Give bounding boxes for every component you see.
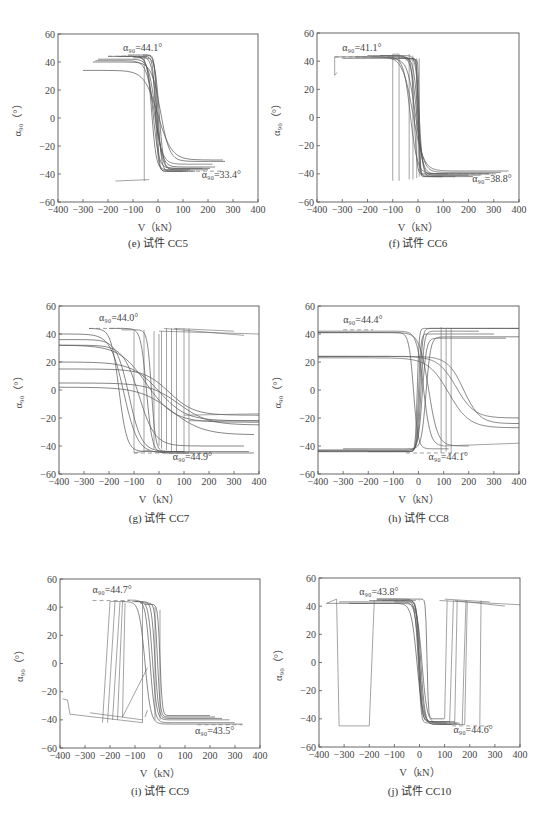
curve-segment	[327, 599, 337, 603]
curve-segment	[337, 599, 340, 726]
curve-segment	[445, 599, 490, 602]
curve-segment	[480, 601, 481, 726]
curve-segment	[450, 601, 454, 724]
chart-panel-j: −400−300−200−10001002003004006040200−20−…	[0, 0, 549, 820]
hysteresis-curve	[327, 603, 458, 723]
chart-j: −400−300−200−10001002003004006040200−20−…	[0, 0, 549, 820]
curve-segment	[455, 601, 458, 725]
hysteresis-curve	[377, 599, 444, 719]
y-tick-label: 0	[311, 657, 316, 668]
hysteresis-curve	[377, 599, 452, 724]
x-tick-label: 300	[487, 749, 502, 760]
curve-segment	[445, 601, 448, 719]
x-tick-label: −300	[334, 749, 355, 760]
x-tick-label: 0	[417, 749, 422, 760]
curve-segment	[462, 601, 466, 725]
y-tick-label: −60	[300, 742, 316, 753]
hysteresis-curve	[349, 603, 460, 723]
y-tick-label: −40	[300, 713, 316, 724]
x-tick-label: 100	[437, 749, 452, 760]
x-axis-label: V（kN）	[399, 767, 439, 778]
angle-annotation: α₉₀=43.8°	[359, 586, 398, 597]
x-tick-label: 400	[513, 749, 528, 760]
x-tick-label: 200	[462, 749, 477, 760]
x-tick-label: −100	[384, 749, 405, 760]
plot-area	[327, 599, 521, 726]
chart-caption: (j) 试件 CC10	[388, 785, 452, 798]
y-tick-label: 60	[306, 573, 316, 584]
hysteresis-curve	[369, 601, 454, 722]
angle-annotation: α₉₀=44.6°	[453, 724, 492, 735]
x-tick-label: −200	[359, 749, 380, 760]
curve-segment	[369, 601, 374, 726]
y-tick-label: −20	[300, 685, 316, 696]
y-tick-label: 20	[306, 629, 316, 640]
y-axis-label: α₉₀（°）	[273, 644, 284, 681]
y-tick-label: 40	[306, 601, 316, 612]
